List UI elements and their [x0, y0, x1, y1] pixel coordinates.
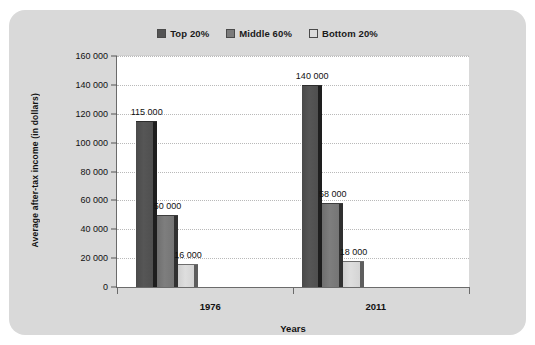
legend-swatch-icon [157, 29, 166, 38]
bar-top-edge [136, 121, 157, 122]
bar-value-label: 16 000 [174, 250, 202, 260]
y-axis-tick-mark [111, 113, 117, 114]
y-axis-tick-mark [111, 142, 117, 143]
y-axis-tick-mark [111, 56, 117, 57]
bar-group: 140 00058 00018 000 [302, 56, 450, 287]
bar-slot: 115 000 [136, 56, 157, 287]
legend-label: Top 20% [170, 29, 209, 39]
y-axis-title: Average after-tax income (in dollars) [27, 50, 43, 290]
y-axis-tick-mark [111, 200, 117, 201]
bar[interactable]: 140 000 [302, 85, 323, 287]
x-axis-tick-mark [117, 287, 118, 294]
plot-wrapper: 020 00040 00060 00080 000100 000120 0001… [117, 55, 469, 287]
x-axis-title: Years [117, 323, 469, 334]
bar[interactable]: 18 000 [343, 261, 364, 287]
legend-item-top-20: Top 20% [157, 29, 209, 39]
y-axis-tick-mark [111, 171, 117, 172]
plot-area: 020 00040 00060 00080 000100 000120 0001… [117, 55, 469, 287]
y-axis-tick-mark [111, 258, 117, 259]
bar-value-label: 18 000 [340, 247, 368, 257]
x-axis-category-label: 1976 [200, 301, 221, 312]
chart-card: Top 20% Middle 60% Bottom 20% Average af… [9, 10, 526, 335]
y-axis-tick-mark [111, 229, 117, 230]
bar-top-edge [178, 264, 199, 265]
bar-group: 115 00050 00016 000 [136, 56, 284, 287]
x-axis-tick-mark [293, 287, 294, 294]
legend-item-middle-60: Middle 60% [226, 29, 292, 39]
bar-slot: 16 000 [178, 56, 199, 287]
bar-top-edge [322, 203, 343, 204]
bar-face [343, 261, 360, 287]
bar-face [322, 203, 339, 287]
chart-legend: Top 20% Middle 60% Bottom 20% [9, 29, 526, 39]
legend-swatch-icon [309, 29, 318, 38]
legend-swatch-icon [226, 29, 235, 38]
legend-item-bottom-20: Bottom 20% [309, 29, 378, 39]
bar[interactable]: 16 000 [178, 264, 199, 287]
bar-top-edge [302, 85, 323, 86]
legend-label: Middle 60% [239, 29, 292, 39]
bar-face [178, 264, 195, 287]
x-axis-tick-mark [469, 287, 470, 294]
bar-slot: 18 000 [343, 56, 364, 287]
bar-top-edge [157, 215, 178, 216]
legend-label: Bottom 20% [322, 29, 378, 39]
bar-side-shadow [360, 261, 364, 287]
x-axis-category-label: 2011 [365, 301, 386, 312]
bar-face [302, 85, 319, 287]
bar-face [157, 215, 174, 287]
bar-top-edge [343, 261, 364, 262]
bar-slot: 140 000 [302, 56, 323, 287]
bar[interactable]: 58 000 [322, 203, 343, 287]
y-axis-tick-mark [111, 84, 117, 85]
y-axis-title-text: Average after-tax income (in dollars) [30, 93, 40, 247]
x-axis-title-text: Years [280, 323, 305, 334]
bar-face [136, 121, 153, 287]
bar-side-shadow [194, 264, 198, 287]
